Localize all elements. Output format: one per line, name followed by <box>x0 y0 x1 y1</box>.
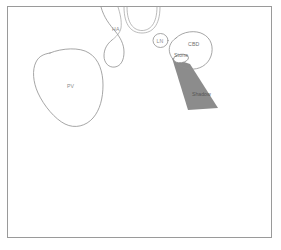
label-cbd: CBD <box>188 41 200 47</box>
label-shadow: Shadow <box>192 91 211 97</box>
hepatic-artery-group: HA <box>101 7 124 67</box>
label-pv: PV <box>67 83 75 89</box>
stone-group: Stone <box>173 52 189 64</box>
label-ha: HA <box>112 26 120 32</box>
hepatic-artery-outline-return <box>112 7 121 40</box>
portal-vein-group: PV <box>34 49 103 127</box>
lymph-node-group: LN <box>153 34 168 48</box>
label-stone: Stone <box>174 52 188 58</box>
arch-outer-line <box>124 7 160 33</box>
acoustic-shadow-group: Shadow <box>172 58 218 110</box>
label-ln: LN <box>157 38 164 44</box>
ultrasound-schematic-drawing: HA LN Shadow CBD Stone PV <box>0 0 281 250</box>
acoustic-shadow-wedge <box>172 58 218 110</box>
figure-root: HA LN Shadow CBD Stone PV <box>0 0 281 250</box>
arch-inner-line <box>127 7 157 31</box>
arch-structure-group <box>124 7 160 33</box>
